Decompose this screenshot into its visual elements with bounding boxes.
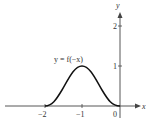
- x-tick-label-0: 0: [113, 110, 117, 119]
- x-axis-arrow-icon: [135, 104, 141, 109]
- curve-label: y = f(−x): [54, 55, 83, 64]
- y-tick-label-1: 1: [113, 62, 117, 71]
- curve-f-of-minus-x: [45, 66, 120, 106]
- chart-canvas: x y −2 −1 0 1 2 y = f(−x): [0, 0, 148, 126]
- y-axis-label: y: [115, 1, 120, 10]
- x-tick-label-m2: −2: [38, 110, 47, 119]
- x-axis-label: x: [141, 102, 146, 111]
- y-tick-label-2: 2: [113, 22, 117, 31]
- y-axis-arrow-icon: [118, 12, 123, 18]
- x-tick-label-m1: −1: [76, 110, 85, 119]
